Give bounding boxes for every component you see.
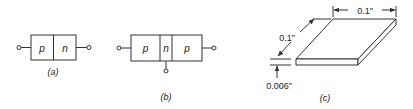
semiconductor-figure: p n (a) p n p (b) 0.1″ [0,0,413,109]
width-dimension-label: 0.1″ [357,6,374,16]
collector-terminal-icon [212,46,216,50]
slab-front-face [296,59,358,65]
base-terminal-icon [164,69,168,73]
right-terminal-icon [87,46,91,50]
diagram-a-pn-junction [17,35,91,60]
caption-b: (b) [161,92,172,102]
thickness-dimension-label: 0.006″ [266,81,293,91]
region-label-n: n [163,43,169,54]
emitter-terminal-icon [117,46,121,50]
left-terminal-icon [17,46,21,50]
region-label-p2: p [183,43,190,54]
depth-arrow-top [300,19,314,32]
depth-arrow-bottom [278,42,291,56]
caption-c: (c) [320,93,331,103]
depth-dimension-label: 0.1″ [279,33,296,43]
caption-a: (a) [48,67,59,77]
region-label-p: p [38,43,45,54]
diagram-b-pnp-transistor [117,35,216,73]
region-label-p1: p [142,43,149,54]
region-label-n: n [62,43,68,54]
